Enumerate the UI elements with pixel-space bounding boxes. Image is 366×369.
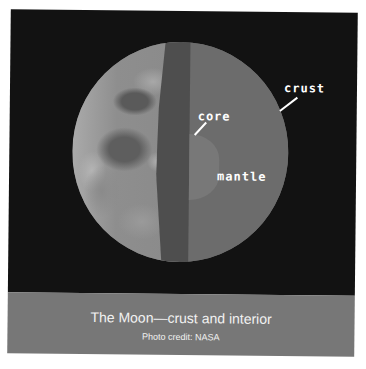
- crust-label: crust: [284, 82, 325, 94]
- mantle-label: mantle: [217, 170, 266, 183]
- caption-band: The Moon—crust and interior Photo credit…: [7, 292, 355, 357]
- moon-sphere: [71, 41, 289, 263]
- moon-photo: crust core mantle: [8, 9, 358, 296]
- caption-title: The Moon—crust and interior: [8, 308, 355, 328]
- moon-figure: crust core mantle The Moon—crust and int…: [7, 9, 358, 357]
- photo-credit: Photo credit: NASA: [7, 330, 354, 344]
- core-label: core: [198, 110, 231, 122]
